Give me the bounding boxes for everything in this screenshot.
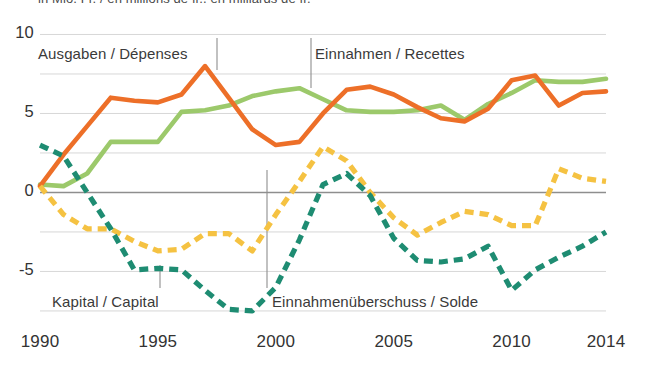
annotation-solde: Einnahmenüberschuss / Solde xyxy=(272,293,478,310)
x-axis-tick: 2010 xyxy=(477,332,547,352)
x-axis-tick: 2014 xyxy=(571,332,641,352)
series-line-ausgaben xyxy=(40,66,606,186)
series-line-einnahmen xyxy=(40,79,606,186)
x-axis-tick: 1990 xyxy=(5,332,75,352)
annotation-kapital: Kapital / Capital xyxy=(52,293,159,310)
annotation-ausgaben: Ausgaben / Dépenses xyxy=(38,45,188,62)
annotation-einnahmen: Einnahmen / Recettes xyxy=(315,45,465,62)
y-axis-tick: 0 xyxy=(0,181,34,200)
chart-container: in Mio. Fr. / en millions de fr., en mil… xyxy=(0,0,654,388)
y-axis-tick: 5 xyxy=(0,102,34,121)
x-axis-tick: 2000 xyxy=(241,332,311,352)
x-axis-tick: 2005 xyxy=(359,332,429,352)
series-line-einnahmenberschuss xyxy=(40,145,606,311)
y-axis-tick: 10 xyxy=(0,23,34,42)
series-line-kapital xyxy=(40,147,606,251)
x-axis-tick: 1995 xyxy=(123,332,193,352)
y-axis-tick: -5 xyxy=(0,260,34,279)
